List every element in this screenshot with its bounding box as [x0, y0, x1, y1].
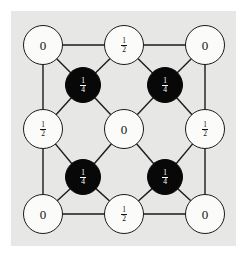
graph-node-inner-bot-right[interactable]: 14 [147, 159, 183, 195]
graph-edge [56, 58, 71, 73]
graph-node-mid-left[interactable]: 12 [23, 109, 63, 149]
graph-edge [176, 98, 192, 115]
fraction-label: 12 [202, 121, 208, 138]
fraction-denominator: 4 [162, 178, 168, 186]
integer-label: 0 [40, 208, 47, 221]
graph-node-top-mid[interactable]: 12 [104, 25, 144, 65]
node-label: 0 [202, 208, 209, 221]
fraction-denominator: 2 [202, 130, 208, 138]
graph-edge [95, 97, 111, 115]
node-label: 0 [121, 123, 128, 136]
integer-label: 0 [40, 39, 47, 52]
graph-node-bot-right[interactable]: 0 [185, 194, 225, 234]
fraction-label: 14 [162, 169, 168, 186]
graph-node-mid-right[interactable]: 12 [185, 109, 225, 149]
fraction-denominator: 2 [40, 130, 46, 138]
node-label: 14 [80, 77, 86, 94]
graph-edge [95, 58, 110, 73]
fraction-denominator: 2 [121, 46, 127, 54]
fraction-denominator: 4 [80, 178, 86, 186]
graph-edge [56, 98, 72, 115]
graph-edge [176, 144, 193, 164]
graph-edge [177, 189, 191, 202]
integer-label: 0 [202, 39, 209, 52]
node-label: 14 [80, 169, 86, 186]
graph-node-inner-top-left[interactable]: 14 [65, 67, 101, 103]
fraction-label: 14 [162, 77, 168, 94]
fraction-label: 12 [40, 121, 46, 138]
graph-edge [177, 58, 192, 73]
graph-node-bot-left[interactable]: 0 [23, 194, 63, 234]
graph-node-top-right[interactable]: 0 [185, 25, 225, 65]
node-label: 14 [162, 77, 168, 94]
graph-figure: 012014141201214140120 [0, 0, 248, 259]
node-label: 14 [162, 169, 168, 186]
node-label: 12 [121, 37, 127, 54]
graph-edge [136, 143, 154, 164]
node-label: 12 [40, 121, 46, 138]
node-label: 12 [121, 206, 127, 223]
graph-node-top-left[interactable]: 0 [23, 25, 63, 65]
graph-edge [96, 188, 110, 201]
fraction-denominator: 2 [121, 215, 127, 223]
graph-edge [137, 97, 153, 115]
node-label: 0 [202, 39, 209, 52]
graph-node-inner-bot-left[interactable]: 14 [65, 159, 101, 195]
graph-node-bot-mid[interactable]: 12 [104, 194, 144, 234]
graph-edge [138, 188, 152, 201]
fraction-label: 14 [80, 169, 86, 186]
graph-node-inner-top-right[interactable]: 14 [147, 67, 183, 103]
node-label: 0 [40, 39, 47, 52]
graph-node-center[interactable]: 0 [104, 109, 144, 149]
fraction-label: 12 [121, 206, 127, 223]
fraction-label: 14 [80, 77, 86, 94]
graph-edge [138, 58, 153, 73]
node-label: 0 [40, 208, 47, 221]
node-label: 12 [202, 121, 208, 138]
fraction-denominator: 4 [162, 86, 168, 94]
fraction-label: 12 [121, 37, 127, 54]
graph-edge [55, 144, 72, 164]
graph-edge [57, 189, 71, 202]
integer-label: 0 [202, 208, 209, 221]
integer-label: 0 [121, 123, 128, 136]
fraction-denominator: 4 [80, 86, 86, 94]
graph-edge [94, 143, 112, 164]
